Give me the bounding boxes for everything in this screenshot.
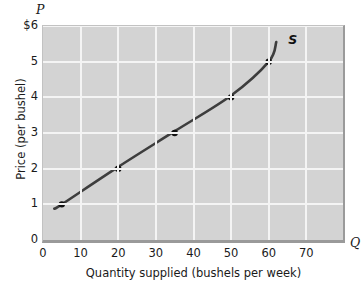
y-tick-label: 5: [31, 56, 38, 68]
y-tick-label: 4: [31, 91, 38, 103]
plot-area: [42, 25, 345, 243]
y-tick-label: 3: [31, 127, 38, 139]
plot-inner: [43, 26, 343, 240]
gridline-horizontal: [43, 26, 343, 27]
x-tick-label: 0: [39, 248, 46, 260]
y-tick-label: 0: [31, 234, 38, 246]
x-tick-label: 20: [111, 248, 126, 260]
y-axis-title: Price (per bushel): [14, 54, 28, 204]
x-tick-label: 50: [224, 248, 239, 260]
supply-curve-line: [54, 42, 276, 209]
gridline-horizontal: [43, 96, 343, 98]
gridline-horizontal: [43, 203, 343, 205]
gridline-horizontal: [43, 61, 343, 63]
x-axis-symbol: Q: [350, 235, 360, 250]
y-tick-label: 2: [31, 163, 38, 175]
x-tick-label: 30: [149, 248, 164, 260]
gridline-horizontal: [43, 168, 343, 170]
y-tick-label: 1: [31, 198, 38, 210]
x-tick-label: 70: [299, 248, 314, 260]
x-tick-label: 60: [261, 248, 276, 260]
x-tick-label: 40: [186, 248, 201, 260]
supply-curve-label: S: [288, 32, 297, 47]
x-axis-title: Quantity supplied (bushels per week): [42, 266, 345, 280]
supply-curve-chart: P Q 012345$6 010203040506070 Quantity su…: [0, 0, 364, 287]
x-tick-label: 10: [73, 248, 88, 260]
y-tick-label: $6: [23, 20, 38, 32]
gridline-horizontal: [43, 132, 343, 134]
